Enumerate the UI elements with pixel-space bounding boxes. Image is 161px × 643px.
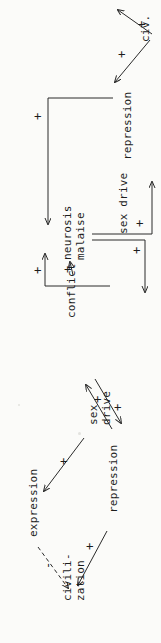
sign-expression-civilization: - bbox=[42, 562, 54, 569]
sign-repression-conflict: + bbox=[32, 113, 44, 120]
sign-sexdrive-repression: + bbox=[92, 396, 104, 403]
sign-repression-civilization: + bbox=[84, 543, 96, 550]
node-expression: expression bbox=[28, 469, 40, 537]
node-civ: civ. bbox=[140, 15, 152, 42]
node-sex-drive-line1: sex bbox=[88, 405, 100, 425]
sign-repression-sexdrive: + bbox=[112, 404, 124, 411]
node-repression: repression bbox=[122, 92, 134, 160]
sign-sexdrive-expression: + bbox=[58, 458, 70, 465]
edge-civ-sexdrive bbox=[115, 40, 150, 82]
diagram-conflict-loop: conflict neurosis malaise sex drive repr… bbox=[0, 0, 161, 330]
sign-conflict-neurosis: + bbox=[62, 266, 74, 273]
edge-repression-conflict bbox=[48, 98, 113, 224]
diagram-1-edges bbox=[0, 0, 161, 330]
scanned-page: conflict neurosis malaise sex drive repr… bbox=[0, 0, 161, 643]
scan-speck bbox=[18, 404, 20, 406]
node-malaise: malaise bbox=[75, 212, 87, 260]
node-repression: repression bbox=[108, 445, 120, 513]
node-civilization-line2: zation bbox=[75, 560, 87, 601]
node-neurosis: neurosis bbox=[62, 205, 74, 260]
sign-conflict-repression: + bbox=[134, 220, 146, 227]
sign-sexdrive-conflict: + bbox=[32, 267, 44, 274]
sign-conflict-sexdrive: + bbox=[131, 247, 143, 254]
sign-civ-sexdrive: + bbox=[116, 51, 128, 58]
sign-civ-repression: + bbox=[136, 21, 148, 28]
diagram-civilization-loop: civilization (dashed) --> civilization -… bbox=[0, 330, 161, 643]
node-sex-drive: sex drive bbox=[118, 173, 130, 234]
node-civilization-line1: civili- bbox=[62, 553, 74, 601]
scan-speck bbox=[78, 432, 81, 435]
